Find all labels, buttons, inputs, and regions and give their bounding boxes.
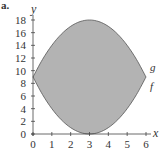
x-tick-label: 4 (106, 138, 112, 150)
x-tick-label: 6 (143, 138, 149, 150)
y-tick-label: 8 (21, 77, 27, 89)
chart: a. 0123456024681012141618xygf (0, 0, 160, 152)
curve-label-g: g (150, 61, 156, 73)
y-tick-label: 18 (15, 14, 27, 26)
y-tick-label: 16 (15, 27, 27, 39)
y-tick-label: 10 (15, 65, 27, 77)
y-tick-label: 4 (21, 103, 27, 115)
x-tick-label: 3 (87, 138, 93, 150)
x-tick-label: 1 (49, 138, 55, 150)
shaded-region (33, 20, 146, 134)
y-axis-label: y (30, 2, 37, 16)
x-tick-label: 2 (68, 138, 74, 150)
y-tick-label: 2 (21, 115, 27, 127)
x-tick-label: 5 (124, 138, 130, 150)
x-axis-label: x (152, 126, 159, 140)
y-tick-label: 6 (21, 90, 27, 102)
y-tick-label: 14 (15, 39, 27, 51)
y-tick-label: 12 (15, 52, 26, 64)
curve-label-f: f (150, 80, 155, 92)
panel-label: a. (1, 0, 10, 11)
x-tick-label: 0 (30, 138, 36, 150)
y-tick-label: 0 (21, 128, 27, 140)
